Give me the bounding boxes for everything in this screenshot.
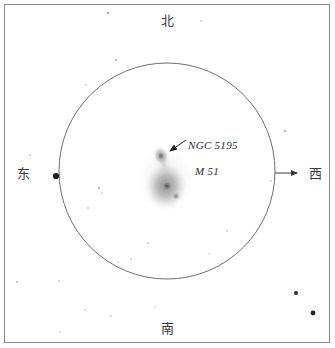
direction-label-north: 北 bbox=[0, 14, 335, 27]
direction-label-west: 西 bbox=[302, 167, 328, 180]
field-star bbox=[208, 253, 209, 254]
field-star bbox=[87, 207, 89, 209]
eyepiece-field-drawing bbox=[0, 0, 335, 348]
field-star bbox=[58, 280, 60, 282]
object-label-m51: M 51 bbox=[195, 165, 219, 177]
field-star bbox=[294, 291, 298, 295]
field-star bbox=[16, 281, 18, 283]
galaxy-companion-core bbox=[157, 152, 165, 160]
galaxy-m51-group bbox=[136, 144, 196, 214]
field-star bbox=[29, 154, 31, 156]
field-star bbox=[115, 59, 117, 61]
field-star bbox=[101, 192, 102, 193]
field-star bbox=[147, 242, 149, 244]
field-star bbox=[110, 315, 112, 317]
object-label-ngc-5195: NGC 5195 bbox=[188, 139, 238, 151]
field-star bbox=[53, 173, 59, 179]
direction-label-south: 南 bbox=[0, 322, 335, 335]
galaxy-spiral-arm-knot bbox=[172, 192, 180, 200]
galaxy-nucleus bbox=[162, 181, 172, 191]
field-star bbox=[84, 309, 86, 311]
field-star bbox=[284, 130, 286, 132]
field-star bbox=[270, 180, 272, 182]
field-star bbox=[226, 230, 228, 232]
field-star bbox=[98, 187, 100, 189]
field-star bbox=[311, 311, 316, 316]
field-star bbox=[85, 84, 87, 86]
field-star bbox=[154, 306, 155, 307]
field-star bbox=[130, 258, 132, 260]
direction-label-east: 东 bbox=[10, 167, 36, 180]
field-star bbox=[117, 261, 118, 262]
astronomy-sketch: 北 南 东 西 NGC 5195 M 51 bbox=[0, 0, 335, 348]
